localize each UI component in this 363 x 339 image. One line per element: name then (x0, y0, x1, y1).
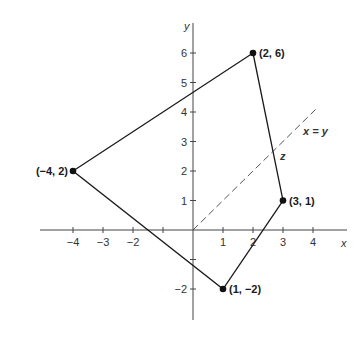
y-tick-label: 5 (181, 77, 187, 89)
x-tick-label: −3 (97, 236, 110, 248)
vertex-label: (−4, 2) (36, 165, 68, 177)
x-tick-label: −2 (127, 236, 140, 248)
x-equals-y-label: x = y (302, 125, 329, 137)
axes: x y −4−3−21234 −2123456 (40, 20, 347, 320)
x-tick-label: −4 (67, 236, 80, 248)
coordinate-diagram: x y −4−3−21234 −2123456 x = y z (2, 6)(3… (0, 0, 363, 339)
x-equals-y-dashed-line (193, 109, 316, 230)
vertex-point (250, 50, 257, 57)
vertex-point (70, 168, 77, 175)
quadrilateral (73, 53, 283, 289)
x-tick-label: 4 (310, 236, 316, 248)
y-tick-label: 3 (181, 136, 187, 148)
x-axis-label: x (340, 237, 347, 249)
x-tick-label: 3 (280, 236, 286, 248)
vertex-label: (1, −2) (229, 283, 261, 295)
vertex-label: (2, 6) (259, 47, 285, 59)
vertex-point (280, 197, 287, 204)
vertex-label: (3, 1) (289, 195, 315, 207)
intersection-z-label: z (279, 150, 286, 162)
y-tick-label: 2 (181, 165, 187, 177)
y-tick-label: 6 (181, 47, 187, 59)
y-axis-label: y (183, 20, 191, 32)
y-tick-label: −2 (174, 283, 187, 295)
y-tick-label: 1 (181, 195, 187, 207)
x-tick-label: 1 (220, 236, 226, 248)
y-tick-label: 4 (181, 106, 187, 118)
vertices: (2, 6)(3, 1)(1, −2)(−4, 2) (36, 47, 315, 295)
vertex-point (220, 286, 227, 293)
